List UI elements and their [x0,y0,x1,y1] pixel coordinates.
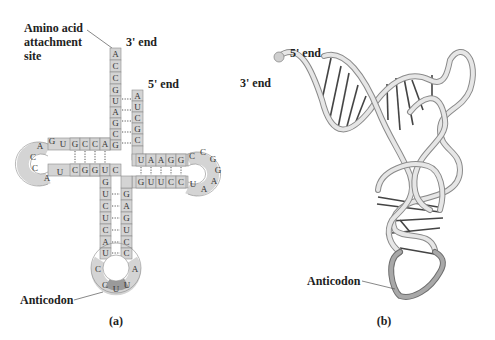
svg-text:G: G [134,124,141,134]
anticodon-loop: C C U U A [91,243,141,294]
trna-figure: A C C G U A G C G A U C G C [0,0,495,340]
svg-text:U: U [123,225,130,235]
svg-text:C: C [30,152,36,162]
svg-text:U: U [124,280,131,290]
acceptor-3prime-strand: A C C G U A G C G [110,48,121,150]
svg-text:A: A [123,201,130,211]
svg-text:A: A [158,155,165,165]
svg-text:C: C [82,139,88,149]
svg-text:A: A [37,141,44,151]
svg-text:C: C [102,280,108,290]
svg-text:G: G [210,154,217,164]
svg-text:G: G [82,165,89,175]
amino-site-label-3: site [24,49,42,63]
panel-a-cloverleaf: A C C G U A G C G A U C G C [15,21,221,328]
svg-text:G: G [112,118,119,128]
svg-text:G: G [112,140,119,150]
svg-text:U: U [102,165,109,175]
amino-site-label-2: attachment [24,35,82,49]
svg-text:U: U [102,189,109,199]
svg-text:C: C [72,165,78,175]
panel-b-3d-structure: 5' end 3' end Anticodon (b) [240,46,473,328]
svg-text:U: U [112,96,119,106]
backbone [278,52,473,297]
svg-text:G: G [72,139,79,149]
three-prime-label-a: 3' end [126,35,157,49]
svg-text:C: C [102,225,108,235]
svg-text:C: C [112,165,118,175]
svg-text:G: G [178,155,185,165]
svg-text:G: G [168,155,175,165]
svg-text:C: C [112,61,118,71]
svg-text:A: A [112,107,119,117]
anticodon-leader-a [74,292,103,300]
three-prime-terminal-knob [274,52,284,62]
svg-text:C: C [200,147,206,157]
svg-text:C: C [32,163,38,173]
caption-b: (b) [377,314,392,328]
svg-text:C: C [112,73,118,83]
t-arm: U A A G G C C G G A A U G U U C C [121,147,222,196]
svg-text:A: A [134,91,141,101]
svg-text:C: C [123,248,129,258]
svg-text:C: C [134,135,140,145]
svg-text:U: U [113,284,120,294]
svg-text:U: U [158,177,165,187]
acceptor-5prime-strand: A U C G C [122,90,143,146]
amino-site-label-1: Amino acid [24,21,83,35]
svg-text:G: G [102,177,109,187]
svg-text:C: C [134,113,140,123]
svg-text:G: G [49,136,56,146]
svg-text:U: U [148,177,155,187]
svg-text:C: C [189,151,195,161]
svg-text:A: A [132,264,139,274]
svg-text:G: G [215,165,222,175]
svg-text:A: A [148,155,155,165]
anticodon-label-b: Anticodon [307,274,361,288]
svg-text:A: A [112,49,119,59]
amino-site-leader-line [87,30,112,48]
svg-text:U: U [138,155,145,165]
svg-text:G: G [123,213,130,223]
svg-text:A: A [102,139,109,149]
five-prime-label-a: 5' end [148,77,179,91]
svg-text:A: A [201,184,208,194]
svg-text:U: U [102,213,109,223]
svg-text:G: G [123,189,130,199]
svg-text:C: C [95,264,101,274]
svg-text:U: U [102,248,109,258]
svg-text:C: C [168,177,174,187]
svg-text:G: G [112,85,119,95]
svg-text:A: A [211,176,218,186]
svg-text:A: A [44,173,51,183]
anticodon-label-a: Anticodon [20,293,74,307]
five-prime-label-b: 5' end [290,46,321,60]
svg-text:U: U [190,179,197,189]
three-prime-label-b: 3' end [240,76,271,90]
svg-text:U: U [134,102,141,112]
svg-text:C: C [178,177,184,187]
svg-text:C: C [112,129,118,139]
svg-text:G: G [92,165,99,175]
svg-text:C: C [92,139,98,149]
svg-text:U: U [57,167,64,177]
svg-text:G: G [138,177,145,187]
d-arm: G C C A U G A C C A U C G G U [15,136,110,186]
svg-text:C: C [102,201,108,211]
caption-a: (a) [109,314,123,328]
svg-text:U: U [60,139,67,149]
